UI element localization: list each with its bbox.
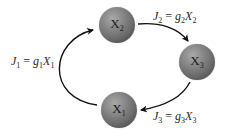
node-x1: X1 <box>101 92 137 128</box>
node-x1-label: X1 <box>112 102 125 118</box>
arrow-x3-to-x1 <box>141 82 190 110</box>
cycle-diagram: X2 X3 X1 J1 = g1X1 J2 = g2X2 J3 = g3X3 <box>0 0 229 137</box>
arrow-x2-to-x3 <box>138 24 188 41</box>
flux-label-j2: J2 = g2X2 <box>153 10 196 25</box>
node-x2-label: X2 <box>110 17 123 33</box>
node-x3-label: X3 <box>190 54 203 70</box>
flux-label-j1: J1 = g1X1 <box>11 55 54 70</box>
arrow-x1-to-x2 <box>59 30 97 105</box>
node-x2: X2 <box>99 7 135 43</box>
node-x3: X3 <box>179 44 215 80</box>
flux-label-j3: J3 = g3X3 <box>153 110 196 125</box>
